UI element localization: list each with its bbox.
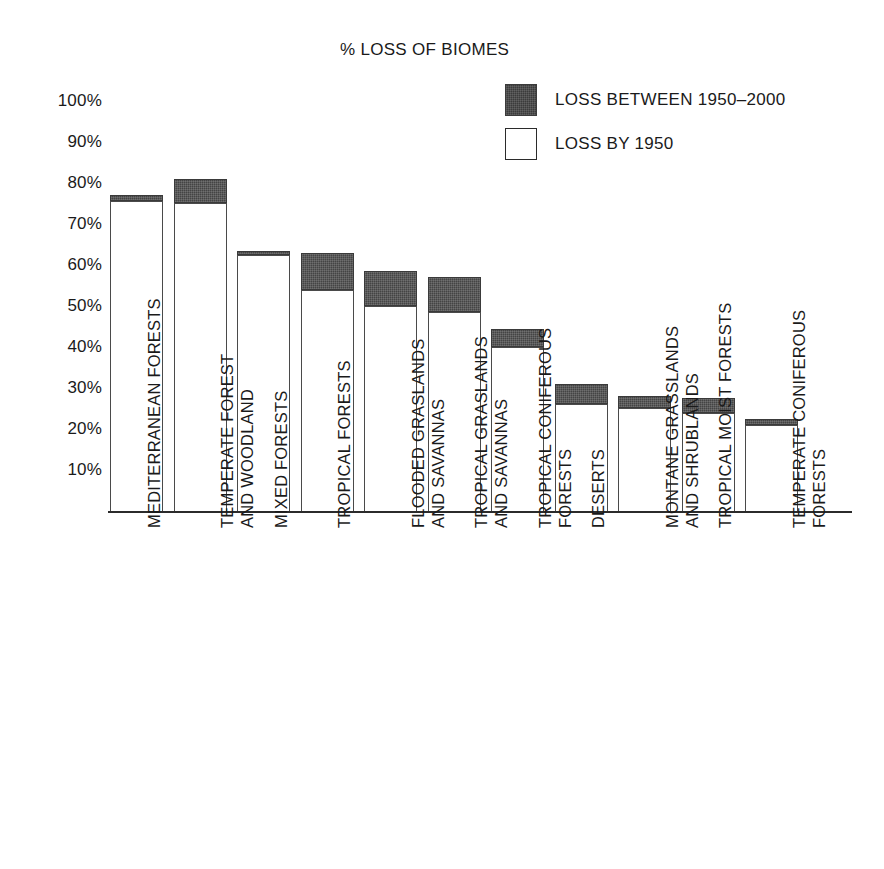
bar-segment-loss-1950-2000: [237, 251, 290, 255]
x-axis-label-line: FLOODED GRASLANDS: [408, 338, 428, 528]
x-axis-label-0: MEDITERRANEAN FORESTS: [144, 298, 164, 528]
bar-segment-loss-1950-2000: [174, 179, 227, 204]
x-axis-label-line: TROPICAL GRASLANDS: [471, 336, 491, 528]
x-axis-label-3: TROPICAL FORESTS: [334, 360, 354, 528]
x-axis-label-line: AND SHRUBLANDS: [682, 326, 702, 528]
y-axis-tick-label: 30%: [30, 378, 102, 398]
x-axis-label-line: FORESTS: [809, 310, 829, 528]
x-axis-label-1: TEMPERATE FORESTAND WOODLAND: [217, 354, 257, 528]
x-axis-label-line: TROPICAL CONIFEROUS: [535, 328, 555, 528]
y-axis-tick-label: 50%: [30, 296, 102, 316]
x-axis-label-line: MEDITERRANEAN FORESTS: [144, 298, 164, 528]
y-axis-tick-label: 100%: [30, 91, 102, 111]
x-axis-label-10: TEMPERATE CONIFEROUSFORESTS: [789, 310, 829, 528]
x-axis-label-5: TROPICAL GRASLANDSAND SAVANNAS: [471, 336, 511, 528]
y-axis-tick-label: 60%: [30, 255, 102, 275]
x-axis-label-4: FLOODED GRASLANDSAND SAVANNAS: [408, 338, 448, 528]
bar-segment-loss-1950-2000: [110, 195, 163, 201]
x-axis-label-line: TROPICAL FORESTS: [334, 360, 354, 528]
x-axis-label-line: TROPICAL MOIST FORESTS: [715, 303, 735, 528]
x-axis-label-line: FORESTS: [555, 328, 575, 528]
bar-segment-loss-1950-2000: [364, 271, 417, 306]
bar-segment-loss-1950-2000: [301, 253, 354, 290]
y-axis-tick-label: 90%: [30, 132, 102, 152]
y-axis-tick-label: 40%: [30, 337, 102, 357]
y-axis-tick-label: 20%: [30, 419, 102, 439]
x-axis-label-line: TEMPERATE FOREST: [217, 354, 237, 528]
x-axis-label-line: AND SAVANNAS: [491, 336, 511, 528]
biome-loss-chart: % LOSS OF BIOMES LOSS BETWEEN 1950–2000 …: [0, 0, 884, 869]
x-axis-label-9: TROPICAL MOIST FORESTS: [715, 303, 735, 528]
x-axis-label-line: TEMPERATE CONIFEROUS: [789, 310, 809, 528]
x-axis-label-line: AND SAVANNAS: [428, 338, 448, 528]
bar-segment-loss-1950-2000: [428, 277, 481, 312]
x-axis-label-8: MONTANE GRASSLANDSAND SHRUBLANDS: [662, 326, 702, 528]
x-axis-label-line: MIXED FORESTS: [271, 391, 291, 528]
y-axis-tick-label: 70%: [30, 214, 102, 234]
y-axis-tick-label: 80%: [30, 173, 102, 193]
y-axis: 100%90%80%70%60%50%40%30%20%10%: [30, 0, 102, 869]
plot-area: 100%90%80%70%60%50%40%30%20%10% MEDITERR…: [0, 0, 884, 869]
y-axis-tick-label: 10%: [30, 460, 102, 480]
x-axis-label-6: TROPICAL CONIFEROUSFORESTS: [535, 328, 575, 528]
x-axis-label-2: MIXED FORESTS: [271, 391, 291, 528]
x-axis-label-line: DESERTS: [588, 449, 608, 528]
x-axis-label-line: MONTANE GRASSLANDS: [662, 326, 682, 528]
x-axis-label-7: DESERTS: [588, 449, 608, 528]
x-axis-label-line: AND WOODLAND: [237, 354, 257, 528]
